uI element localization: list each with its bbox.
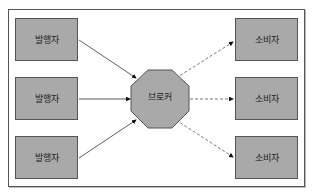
publisher-label: 발행자	[35, 151, 59, 164]
edge-publisher-3-broker	[79, 120, 136, 158]
edge-broker-consumer-3	[176, 120, 233, 157]
consumer-label: 소비자	[255, 151, 279, 164]
consumer-node-1: 소비자	[235, 18, 298, 61]
publisher-node-3: 발행자	[15, 136, 78, 179]
consumer-node-3: 소비자	[235, 136, 298, 179]
consumer-label: 소비자	[255, 92, 279, 105]
publisher-node-1: 발행자	[15, 18, 78, 61]
consumer-node-2: 소비자	[235, 77, 298, 120]
broker-label: 브로커	[130, 90, 190, 103]
publisher-node-2: 발행자	[15, 77, 78, 120]
edge-publisher-1-broker	[79, 40, 136, 78]
consumer-label: 소비자	[255, 33, 279, 46]
publisher-label: 발행자	[35, 92, 59, 105]
edge-broker-consumer-1	[176, 42, 233, 78]
publisher-label: 발행자	[35, 33, 59, 46]
